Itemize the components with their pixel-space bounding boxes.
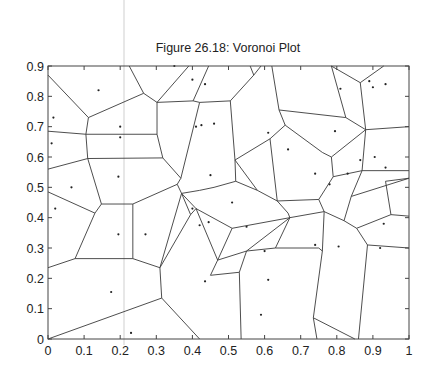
x-tick-label: 1 — [406, 344, 413, 358]
x-tick-label: 0.2 — [112, 344, 129, 358]
voronoi-site — [119, 136, 121, 138]
voronoi-edge — [313, 251, 322, 318]
voronoi-edge — [331, 66, 345, 118]
voronoi-sites — [51, 65, 387, 334]
y-tick-label: 0 — [37, 333, 44, 347]
voronoi-edge — [232, 218, 290, 229]
x-tick-label: 0.3 — [148, 344, 165, 358]
chart-title: Figure 26.18: Voronoi Plot — [156, 41, 301, 55]
voronoi-site — [384, 83, 386, 85]
y-tick-label: 0.5 — [27, 181, 44, 195]
voronoi-site — [97, 89, 99, 91]
voronoi-edge — [48, 131, 86, 134]
voronoi-edge — [214, 181, 236, 187]
voronoi-edge — [48, 192, 95, 213]
x-tick-label: 0.9 — [364, 344, 381, 358]
voronoi-site — [379, 247, 381, 249]
voronoi-site — [339, 88, 341, 90]
voronoi-edge — [162, 298, 200, 339]
voronoi-site — [384, 167, 386, 169]
voronoi-edge — [250, 66, 254, 75]
y-tick-label: 0.7 — [27, 120, 44, 134]
voronoi-site — [314, 173, 316, 175]
voronoi-edge — [324, 212, 344, 221]
voronoi-site — [208, 221, 210, 223]
voronoi-edge — [279, 110, 285, 125]
voronoi-edge — [351, 171, 362, 197]
voronoi-site — [110, 291, 112, 293]
x-tick-label: 0.7 — [292, 344, 309, 358]
voronoi-edge — [157, 134, 163, 158]
voronoi-edge — [230, 75, 253, 101]
voronoi-site — [200, 124, 202, 126]
voronoi-edge — [277, 199, 319, 201]
y-tick-label: 0.3 — [27, 242, 44, 256]
voronoi-site — [144, 233, 146, 235]
voronoi-edge — [163, 158, 181, 178]
voronoi-edge — [200, 101, 231, 103]
voronoi-edge — [254, 66, 261, 75]
voronoi-site — [204, 83, 206, 85]
voronoi-edge — [322, 212, 324, 251]
voronoi-edge — [129, 66, 143, 93]
voronoi-edge — [285, 125, 322, 152]
voronoi-site — [191, 79, 193, 81]
x-tick-label: 0 — [45, 344, 52, 358]
x-tick-label: 0.5 — [220, 344, 237, 358]
voronoi-edge — [344, 196, 351, 220]
voronoi-edge — [344, 221, 357, 229]
voronoi-edge — [313, 318, 355, 339]
voronoi-edge — [196, 209, 218, 261]
voronoi-edge — [88, 158, 163, 159]
voronoi-edge — [391, 215, 409, 217]
voronoi-edge — [48, 298, 162, 339]
voronoi-edge — [239, 272, 241, 339]
voronoi-site — [51, 142, 53, 144]
voronoi-site — [287, 148, 289, 150]
voronoi-edge — [270, 139, 277, 201]
x-tick-label: 0.8 — [328, 344, 345, 358]
y-tick-label: 0.8 — [27, 90, 44, 104]
voronoi-edge — [357, 228, 368, 245]
voronoi-site — [117, 176, 119, 178]
voronoi-edge — [177, 178, 181, 184]
voronoi-edge — [88, 159, 102, 205]
voronoi-site — [191, 207, 193, 209]
y-tick-label: 0.2 — [27, 272, 44, 286]
voronoi-site — [374, 156, 376, 158]
voronoi-edges — [48, 66, 409, 339]
voronoi-edge — [157, 66, 189, 102]
voronoi-edge — [182, 193, 191, 214]
voronoi-site — [372, 86, 374, 88]
voronoi-edge — [235, 139, 270, 160]
voronoi-edge — [86, 118, 89, 135]
voronoi-edge — [279, 110, 346, 118]
voronoi-edge — [133, 184, 177, 204]
voronoi-edge — [133, 259, 160, 268]
voronoi-site — [209, 174, 211, 176]
voronoi-site — [347, 173, 349, 175]
voronoi-site — [119, 126, 121, 128]
voronoi-edge — [277, 201, 288, 213]
voronoi-edge — [75, 213, 95, 259]
voronoi-edge — [182, 190, 200, 193]
voronoi-site — [117, 233, 119, 235]
voronoi-edge — [193, 101, 199, 103]
voronoi-edge — [191, 209, 196, 215]
voronoi-edge — [319, 199, 324, 211]
voronoi-edge — [331, 130, 365, 157]
x-axis: 00.10.20.30.40.50.60.70.80.91 — [45, 66, 413, 358]
voronoi-site — [199, 224, 201, 226]
voronoi-edge — [210, 272, 239, 275]
x-tick-label: 0.4 — [184, 344, 201, 358]
voronoi-edge — [177, 184, 181, 193]
y-tick-label: 0.6 — [27, 151, 44, 165]
voronoi-site — [267, 279, 269, 281]
voronoi-edge — [210, 260, 217, 275]
voronoi-edge — [247, 248, 276, 251]
voronoi-site — [314, 244, 316, 246]
voronoi-edge — [290, 212, 324, 218]
voronoi-edge — [86, 134, 88, 158]
y-tick-label: 0.4 — [27, 211, 44, 225]
voronoi-edge — [270, 125, 285, 139]
